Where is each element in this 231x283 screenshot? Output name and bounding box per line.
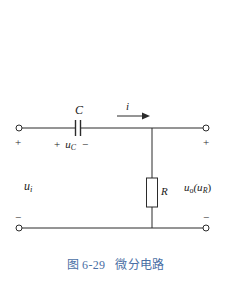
capacitor-label: C <box>75 104 83 116</box>
resistor-body <box>147 178 158 207</box>
polarity-sign-top-right: + <box>203 137 209 148</box>
terminal-top-right <box>203 125 209 131</box>
terminal-bottom-left <box>16 225 22 231</box>
current-label: i <box>126 101 129 112</box>
current-arrow-head <box>142 113 150 120</box>
figure-caption-title: 微分电路 <box>115 258 164 272</box>
output-alt-open-paren: (u <box>193 181 202 193</box>
polarity-sign-top-left: + <box>15 137 21 148</box>
polarity-sign-bottom-right: − <box>203 212 209 223</box>
capacitor-voltage-annotation: +uC− <box>54 139 88 152</box>
output-alt-close-paren: ) <box>207 181 211 193</box>
polarity-sign-bottom-left: − <box>15 212 21 223</box>
resistor-label: R <box>161 186 168 197</box>
terminal-bottom-right <box>203 225 209 231</box>
circuit-schematic <box>0 0 231 283</box>
capacitor-minus-sign: − <box>82 138 88 150</box>
figure-caption-number: 图 6-29 <box>67 258 106 272</box>
terminal-top-left <box>16 125 22 131</box>
input-voltage-label: ui <box>24 180 32 194</box>
figure-caption: 图 6-29微分电路 <box>0 255 231 273</box>
figure-container: C i +uC− R ui uo(uR) + + − − 图 6-29微分电路 <box>0 0 231 283</box>
output-voltage-label: uo(uR) <box>184 182 211 195</box>
input-voltage-subscript: i <box>30 184 32 194</box>
capacitor-plus-sign: + <box>54 138 60 150</box>
capacitor-voltage-subscript: C <box>71 143 76 152</box>
